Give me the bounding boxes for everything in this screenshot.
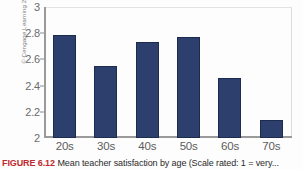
bar-40s[interactable] (136, 42, 159, 138)
bar-70s[interactable] (260, 120, 283, 138)
y-axis-tick-label: 2.2 (25, 106, 40, 118)
caption-label: FIGURE 6.12 (2, 158, 55, 168)
bar-slot (44, 7, 85, 138)
x-axis-label-60s: 60s (209, 140, 250, 156)
bar-20s[interactable] (53, 35, 76, 138)
x-axis-label-30s: 30s (85, 140, 126, 156)
x-axis-label-50s: 50s (168, 140, 209, 156)
caption-text: Mean teacher satisfaction by age (Scale … (57, 158, 278, 168)
y-axis-tick-label: 2.4 (25, 80, 40, 92)
bar-series (44, 7, 292, 138)
x-axis-tick-labels: 20s30s40s50s60s70s (44, 140, 292, 156)
x-axis-label-70s: 70s (251, 140, 292, 156)
bar-50s[interactable] (177, 37, 200, 138)
bar-chart: 22.22.42.62.83 (44, 7, 292, 138)
bar-slot (127, 7, 168, 138)
y-axis-tick-label: 3 (34, 1, 40, 13)
bar-30s[interactable] (94, 66, 117, 138)
bar-slot (85, 7, 126, 138)
y-axis-tick-label: 2 (34, 132, 40, 144)
bar-slot (168, 7, 209, 138)
figure-container: © Cengage Learning 2013 22.22.42.62.83 2… (0, 0, 303, 169)
bar-slot (209, 7, 250, 138)
figure-caption: FIGURE 6.12 Mean teacher satisfaction by… (2, 158, 303, 168)
y-axis-tick-label: 2.8 (25, 27, 40, 39)
y-axis-tick-label: 2.6 (25, 53, 40, 65)
bar-60s[interactable] (218, 78, 241, 138)
x-axis-label-20s: 20s (44, 140, 85, 156)
bar-slot (251, 7, 292, 138)
x-axis-label-40s: 40s (127, 140, 168, 156)
